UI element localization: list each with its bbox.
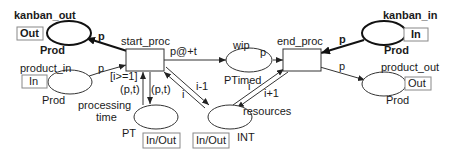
place-resources[interactable]: resources INT In/Out [193, 105, 292, 148]
arc-label-product-in-to-start: p [98, 62, 104, 74]
place-type: Prod [386, 94, 409, 106]
place-type: PT [122, 127, 136, 139]
arc-label-wip-to-end: p [260, 46, 266, 58]
place-product-out[interactable]: product_out Prod Out [362, 61, 439, 106]
transition-guard: [i>=1] [110, 70, 138, 82]
port-tag: Out [20, 27, 39, 39]
place-type: Prod [384, 44, 409, 56]
arc-label-start-to-wip: p@+t [170, 45, 197, 57]
arc-label-start-to-kanban-out: p [98, 30, 105, 42]
transition-start-proc[interactable]: start_proc [i>=1] [110, 35, 170, 82]
place-name: wip [232, 39, 250, 51]
port-tag: Out [408, 77, 426, 89]
arc-label-kanban-in-to-end: p [339, 33, 346, 45]
arc-label-start-to-pt: (p,t) [151, 83, 171, 95]
place-processing-time[interactable]: processing time PT In/Out [78, 99, 180, 148]
arc-label-end-to-product-out: p [339, 60, 345, 72]
transition-end-proc[interactable]: end_proc [277, 35, 323, 71]
port-tag: In [29, 75, 38, 87]
arc-label-resources-to-end: i [248, 80, 250, 92]
arc-label-end-to-resources: i+1 [264, 87, 279, 99]
place-name-line1: processing [78, 99, 131, 111]
port-tag: In/Out [146, 134, 176, 146]
petri-net-diagram: kanban_out Prod Out product_in Prod In w… [0, 0, 453, 155]
arc-label-resources-to-start: i [182, 88, 184, 100]
arc-label-start-to-resources: i-1 [196, 80, 208, 92]
transition-name: start_proc [121, 35, 170, 47]
place-type: PTimed [224, 74, 262, 86]
place-name: resources [243, 105, 292, 117]
place-kanban-out[interactable]: kanban_out Prod Out [14, 9, 91, 56]
place-name: product_out [381, 61, 439, 73]
place-type: Prod [40, 44, 65, 56]
place-name: kanban_out [14, 9, 76, 21]
port-tag: In [411, 28, 421, 40]
place-type: INT [237, 131, 255, 143]
arc-label-pt-to-start: (p,t) [120, 83, 140, 95]
place-name-line2: time [96, 111, 117, 123]
place-name: product_in [20, 62, 71, 74]
port-tag: In/Out [196, 134, 226, 146]
transition-name: end_proc [277, 35, 323, 47]
place-name: kanban_in [383, 9, 438, 21]
place-kanban-in[interactable]: kanban_in Prod In [362, 9, 438, 56]
place-type: Prod [42, 94, 65, 106]
